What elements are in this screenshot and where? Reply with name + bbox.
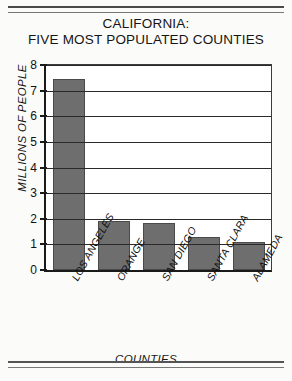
y-axis-tick: [40, 269, 47, 271]
gridline: [46, 65, 271, 66]
y-axis-tick-label: 3: [30, 186, 37, 200]
bar: [53, 79, 85, 270]
plot-area-wrapper: MILLIONS OF PEOPLE 876543210 LOS ANGELES…: [0, 0, 292, 381]
y-axis-tick-label: 5: [30, 135, 37, 149]
y-axis-tick-label: 0: [30, 263, 37, 277]
y-axis-tick: [40, 115, 47, 117]
plot-frame: 876543210: [44, 64, 272, 272]
gridline: [46, 168, 271, 169]
y-axis-tick: [40, 218, 47, 220]
page-rule-bottom-inner: [8, 367, 284, 368]
page-rule-bottom-outer: [8, 361, 284, 363]
chart-page: CALIFORNIA: FIVE MOST POPULATED COUNTIES…: [0, 0, 292, 381]
gridline: [46, 193, 271, 194]
gridline: [46, 116, 271, 117]
y-axis-tick-label: 4: [30, 161, 37, 175]
y-axis-tick: [40, 64, 47, 66]
y-axis-tick-label: 2: [30, 212, 37, 226]
y-axis-title: MILLIONS OF PEOPLE: [16, 48, 28, 208]
y-axis-tick: [40, 192, 47, 194]
gridline: [46, 91, 271, 92]
gridline: [46, 244, 271, 245]
x-axis-title: COUNTIES: [0, 353, 292, 365]
gridline: [46, 142, 271, 143]
y-axis-tick: [40, 243, 47, 245]
y-axis-tick: [40, 167, 47, 169]
y-axis-tick-label: 7: [30, 84, 37, 98]
y-axis-tick-label: 1: [30, 237, 37, 251]
y-axis-tick: [40, 141, 47, 143]
y-axis-tick: [40, 90, 47, 92]
y-axis-tick-label: 6: [30, 109, 37, 123]
y-axis-tick-label: 8: [30, 58, 37, 72]
